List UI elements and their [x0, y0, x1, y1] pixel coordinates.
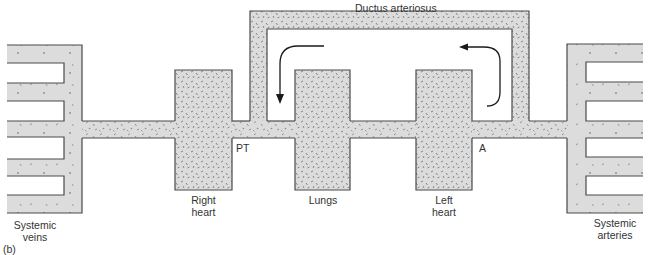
- left-heart-label: Left heart: [416, 194, 472, 218]
- lungs-label: Lungs: [293, 194, 353, 206]
- systemic-veins-label: Systemic veins: [5, 219, 65, 243]
- right-heart-label: Right heart: [175, 194, 232, 218]
- systemic-arteries: [567, 44, 643, 213]
- panel-label: (b): [3, 243, 16, 255]
- left-heart-chamber: [416, 70, 472, 190]
- right-heart-chamber: [175, 70, 232, 190]
- ductus-arteriosus: [250, 11, 529, 121]
- lungs-chamber: [295, 70, 350, 190]
- ductus-arteriosus-label: Ductus arteriosus: [355, 2, 437, 14]
- pulmonary-trunk-label: PT: [236, 142, 249, 154]
- aorta-label: A: [479, 142, 486, 154]
- systemic-arteries-label: Systemic arteries: [585, 217, 645, 241]
- systemic-veins: [7, 45, 82, 213]
